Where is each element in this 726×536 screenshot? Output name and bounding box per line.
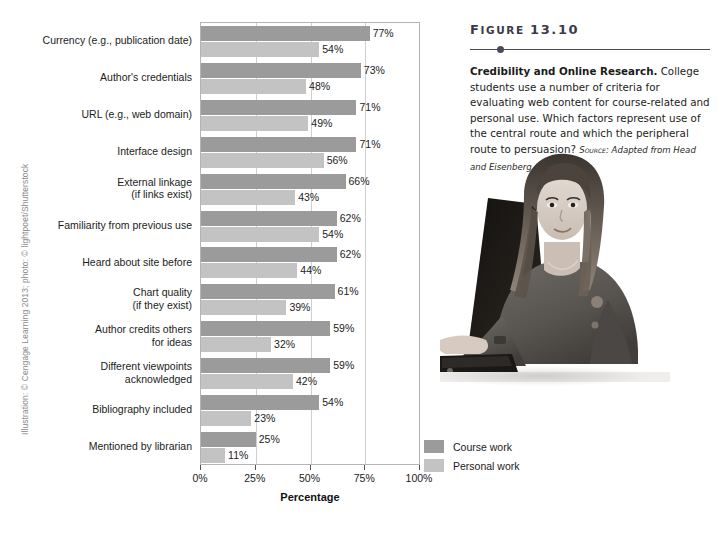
table-shadow bbox=[440, 366, 650, 386]
bar-value-personal: 32% bbox=[274, 337, 295, 352]
bar-group: 54%23% bbox=[201, 395, 420, 426]
bar-personal bbox=[201, 42, 319, 57]
bar-course bbox=[201, 395, 319, 410]
bar-group: 59%42% bbox=[201, 358, 420, 389]
category-label-line: Currency (e.g., publication date) bbox=[28, 34, 192, 47]
category-label-line: Author's credentials bbox=[28, 71, 192, 84]
category-label-line: External linkage bbox=[28, 176, 192, 189]
legend-swatch-course bbox=[424, 440, 444, 453]
category-label: Familiarity from previous use bbox=[28, 219, 200, 232]
category-label: Heard about site before bbox=[28, 256, 200, 269]
figure-heading: FIGURE 13.10 bbox=[470, 22, 710, 37]
category-label-line: Mentioned by librarian bbox=[28, 440, 192, 453]
bar-group: 59%32% bbox=[201, 321, 420, 352]
bar-value-personal: 11% bbox=[228, 448, 248, 463]
bar-group: 71%56% bbox=[201, 137, 420, 168]
category-label: Author's credentials bbox=[28, 71, 200, 84]
bars-layer: 77%54%73%48%71%49%71%56%66%43%62%54%62%4… bbox=[201, 23, 420, 464]
bar-group: 25%11% bbox=[201, 432, 420, 463]
category-label-line: Chart quality bbox=[28, 286, 192, 299]
category-label: Bibliography included bbox=[28, 403, 200, 416]
left-hand bbox=[440, 336, 488, 355]
bar-value-personal: 54% bbox=[322, 227, 343, 242]
x-tick-50 bbox=[310, 465, 311, 470]
bar-value-personal: 54% bbox=[322, 42, 343, 57]
bar-value-personal: 42% bbox=[296, 374, 317, 389]
bar-value-personal: 23% bbox=[254, 411, 275, 426]
bar-value-course: 77% bbox=[373, 26, 394, 41]
wristwatch bbox=[494, 336, 506, 344]
x-tick-label: 0% bbox=[192, 472, 207, 484]
category-label-line: Heard about site before bbox=[28, 256, 192, 269]
bar-personal bbox=[201, 190, 295, 205]
bar-course bbox=[201, 211, 337, 226]
caption-divider bbox=[470, 46, 710, 53]
category-label-line: Author credits others bbox=[28, 323, 192, 336]
bar-value-course: 61% bbox=[338, 284, 359, 299]
bar-chart: Currency (e.g., publication date)Author'… bbox=[28, 8, 448, 520]
chart-legend: Course workPersonal work bbox=[424, 437, 564, 475]
bar-personal bbox=[201, 448, 225, 463]
category-label-line: Bibliography included bbox=[28, 403, 192, 416]
bar-value-personal: 49% bbox=[311, 116, 332, 131]
bar-personal bbox=[201, 263, 297, 278]
category-label: Interface design bbox=[28, 145, 200, 158]
bar-personal bbox=[201, 227, 319, 242]
bar-group: 66%43% bbox=[201, 174, 420, 205]
x-axis: Percentage 0%25%50%75%100% bbox=[200, 465, 420, 511]
bar-value-course: 71% bbox=[359, 100, 380, 115]
category-label: External linkage(if links exist) bbox=[28, 176, 200, 201]
bar-personal bbox=[201, 374, 293, 389]
category-label: Mentioned by librarian bbox=[28, 440, 200, 453]
bar-group: 77%54% bbox=[201, 26, 420, 57]
neck bbox=[544, 242, 580, 276]
category-label-line: URL (e.g., web domain) bbox=[28, 108, 192, 121]
bar-personal bbox=[201, 79, 306, 94]
legend-label: Course work bbox=[453, 441, 512, 453]
category-label-line: Interface design bbox=[28, 145, 192, 158]
caption-body-text: College students use a number of criteri… bbox=[470, 65, 710, 155]
bar-value-course: 59% bbox=[333, 321, 354, 336]
category-label-line: (if they exist) bbox=[28, 299, 192, 312]
bar-value-course: 54% bbox=[322, 395, 343, 410]
bar-course bbox=[201, 174, 346, 189]
x-tick-75 bbox=[364, 465, 365, 470]
category-label: Author credits othersfor ideas bbox=[28, 323, 200, 348]
category-label-line: Familiarity from previous use bbox=[28, 219, 192, 232]
bar-value-personal: 44% bbox=[300, 263, 321, 278]
bar-personal bbox=[201, 337, 271, 352]
figure-heading-f: F bbox=[470, 22, 480, 37]
face bbox=[537, 176, 587, 240]
bar-value-course: 66% bbox=[349, 174, 370, 189]
bar-value-personal: 56% bbox=[327, 153, 348, 168]
bar-value-course: 25% bbox=[259, 432, 280, 447]
bar-course bbox=[201, 137, 356, 152]
left-pupil bbox=[550, 203, 555, 208]
brooch-small bbox=[592, 322, 599, 329]
category-label: URL (e.g., web domain) bbox=[28, 108, 200, 121]
bar-value-course: 59% bbox=[333, 358, 354, 373]
x-tick-100 bbox=[419, 465, 420, 470]
bar-personal bbox=[201, 153, 324, 168]
bar-group: 73%48% bbox=[201, 63, 420, 94]
figure-heading-igure: IGURE bbox=[480, 24, 530, 36]
legend-swatch-personal bbox=[424, 459, 444, 472]
bar-personal bbox=[201, 116, 308, 131]
bar-course bbox=[201, 26, 370, 41]
legend-item-personal[interactable]: Personal work bbox=[424, 456, 564, 475]
x-tick-label: 75% bbox=[354, 472, 375, 484]
bar-course bbox=[201, 284, 335, 299]
figure-heading-number: 13.10 bbox=[530, 22, 579, 37]
category-label-line: Different viewpoints bbox=[28, 360, 192, 373]
divider-line bbox=[470, 49, 710, 50]
bar-course bbox=[201, 100, 356, 115]
bar-value-course: 73% bbox=[364, 63, 385, 78]
laptop-keyboard bbox=[442, 356, 512, 368]
bar-value-personal: 48% bbox=[309, 79, 330, 94]
legend-label: Personal work bbox=[453, 460, 520, 472]
bar-course bbox=[201, 247, 337, 262]
bar-value-course: 62% bbox=[340, 211, 361, 226]
bar-value-personal: 43% bbox=[298, 190, 319, 205]
bar-personal bbox=[201, 411, 251, 426]
brooch bbox=[591, 296, 603, 308]
